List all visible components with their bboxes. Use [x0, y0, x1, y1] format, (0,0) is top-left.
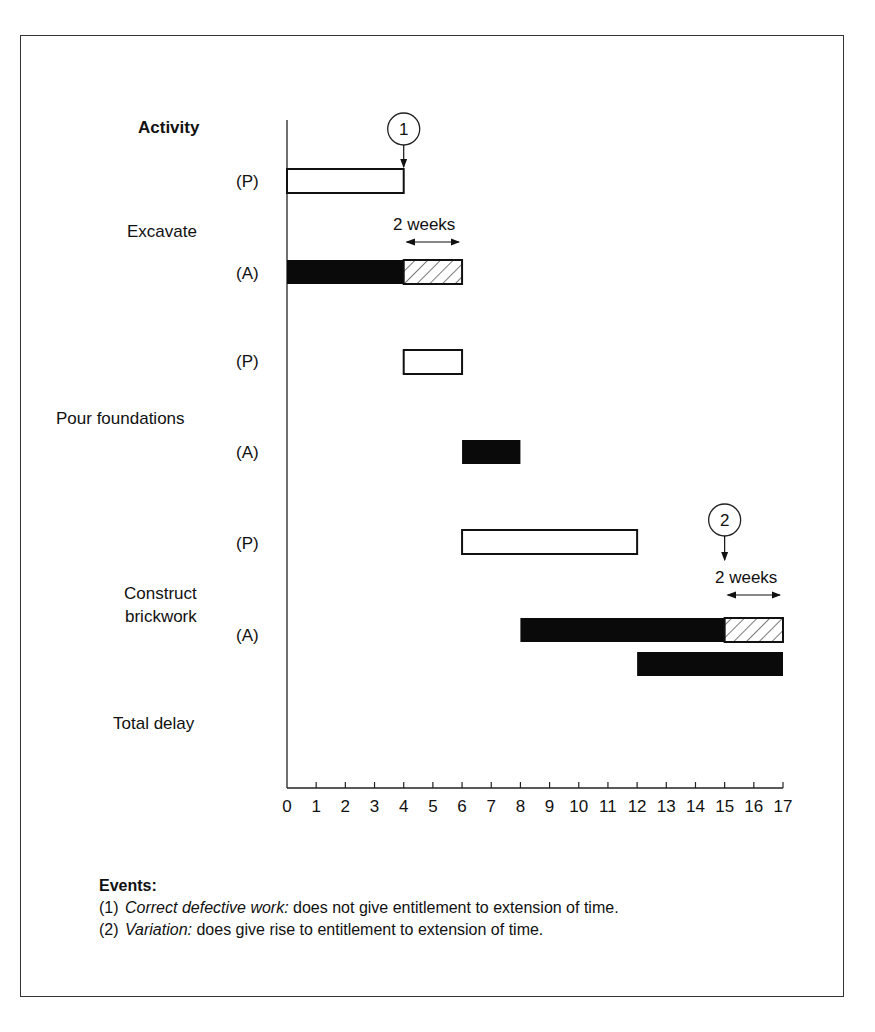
- row-label-pour-a: (A): [236, 443, 259, 463]
- x-tick-label: 11: [599, 797, 617, 816]
- activity-label-brick-2: brickwork: [125, 607, 197, 627]
- total-delay-bar: [637, 652, 783, 676]
- event-item-2: (2)Variation: does give rise to entitlem…: [99, 919, 619, 941]
- row-label-excavate-p: (P): [236, 172, 259, 192]
- event-marker-number: 2: [720, 511, 729, 530]
- row-label-excavate-a: (A): [236, 264, 259, 284]
- activity-label-excavate: Excavate: [127, 222, 197, 242]
- actual-bar: [520, 618, 724, 642]
- x-tick-label: 3: [370, 797, 379, 816]
- activity-label-total-delay: Total delay: [113, 714, 194, 734]
- event-item-1: (1)Correct defective work: does not give…: [99, 897, 619, 919]
- planned-bar: [404, 350, 462, 374]
- activity-header: Activity: [138, 118, 199, 138]
- x-tick-label: 4: [399, 797, 408, 816]
- events-legend: Events: (1)Correct defective work: does …: [99, 875, 619, 941]
- row-label-brick-p: (P): [236, 534, 259, 554]
- x-tick-label: 5: [428, 797, 437, 816]
- row-label-brick-a: (A): [236, 626, 259, 646]
- x-tick-label: 7: [487, 797, 496, 816]
- x-tick-label: 14: [686, 797, 705, 816]
- actual-bar: [287, 260, 404, 284]
- delay-hatched-bar: [725, 618, 783, 642]
- x-tick-label: 12: [628, 797, 647, 816]
- x-tick-label: 13: [657, 797, 676, 816]
- x-tick-label: 8: [516, 797, 525, 816]
- x-tick-label: 10: [569, 797, 588, 816]
- planned-bar: [462, 530, 637, 554]
- x-tick-label: 9: [545, 797, 554, 816]
- x-tick-label: 15: [715, 797, 734, 816]
- event-marker-number: 1: [399, 120, 408, 139]
- axes: 01234567891011121314151617: [282, 120, 792, 816]
- events-heading: Events:: [99, 875, 619, 897]
- activity-label-pour: Pour foundations: [56, 409, 185, 429]
- delay-label-1: 2 weeks: [393, 215, 455, 235]
- x-tick-label: 1: [311, 797, 320, 816]
- x-tick-label: 17: [774, 797, 793, 816]
- planned-bar: [287, 169, 404, 193]
- activity-label-brick-1: Construct: [124, 584, 197, 604]
- delay-hatched-bar: [404, 260, 462, 284]
- x-tick-label: 6: [457, 797, 466, 816]
- x-tick-label: 0: [282, 797, 291, 816]
- x-tick-label: 16: [744, 797, 763, 816]
- delay-label-2: 2 weeks: [715, 568, 777, 588]
- x-tick-label: 2: [341, 797, 350, 816]
- row-label-pour-p: (P): [236, 352, 259, 372]
- bars: [287, 169, 783, 676]
- actual-bar: [462, 440, 520, 464]
